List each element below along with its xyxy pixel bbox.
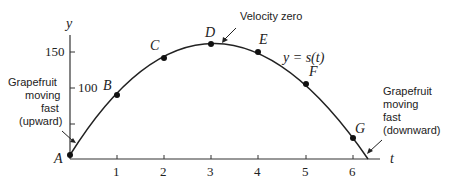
t-tick-label-6: 6 <box>349 164 356 179</box>
y-tick-label-150: 150 <box>45 44 65 59</box>
label-E: E <box>258 32 268 47</box>
y-axis-label: y <box>64 16 73 31</box>
downward-arrow <box>370 140 382 151</box>
t-tick-label-2: 2 <box>160 164 167 179</box>
t-tick-label-3: 3 <box>207 164 214 179</box>
arrow-head-icon <box>222 37 228 43</box>
upward-label-line2: moving <box>25 89 60 101</box>
upward-label-line1: Grapefruit <box>8 76 57 88</box>
downward-label-line2: moving <box>383 98 418 110</box>
t-tick-label-5: 5 <box>302 164 309 179</box>
downward-label-line1: Grapefruit <box>383 85 432 97</box>
upward-label-line4: (upward) <box>19 115 62 127</box>
curve-label: y = s(t) <box>281 50 325 66</box>
chart: 1 2 3 4 5 6 150 100 y t A B C D E F G y … <box>0 0 453 183</box>
downward-label-line4: (downward) <box>383 124 440 136</box>
upward-arrow <box>62 131 73 141</box>
label-A: A <box>53 151 63 166</box>
point-B <box>114 92 120 98</box>
t-tick-label-4: 4 <box>254 164 261 179</box>
label-G: G <box>355 121 365 136</box>
t-axis-label: t <box>390 151 395 166</box>
label-C: C <box>150 38 160 53</box>
point-E <box>255 49 261 55</box>
downward-label-line3: fast <box>383 111 401 123</box>
point-F <box>303 81 309 87</box>
y-tick-label-100: 100 <box>78 80 98 95</box>
point-A <box>67 152 73 158</box>
point-C <box>161 55 167 61</box>
label-B: B <box>103 78 112 93</box>
label-D: D <box>204 25 215 40</box>
velocity-zero-label: Velocity zero <box>240 10 302 22</box>
point-D <box>208 41 214 47</box>
label-F: F <box>308 64 318 79</box>
velocity-zero-arrow <box>224 28 236 40</box>
t-tick-label-1: 1 <box>113 164 120 179</box>
upward-label-line3: fast <box>41 102 59 114</box>
